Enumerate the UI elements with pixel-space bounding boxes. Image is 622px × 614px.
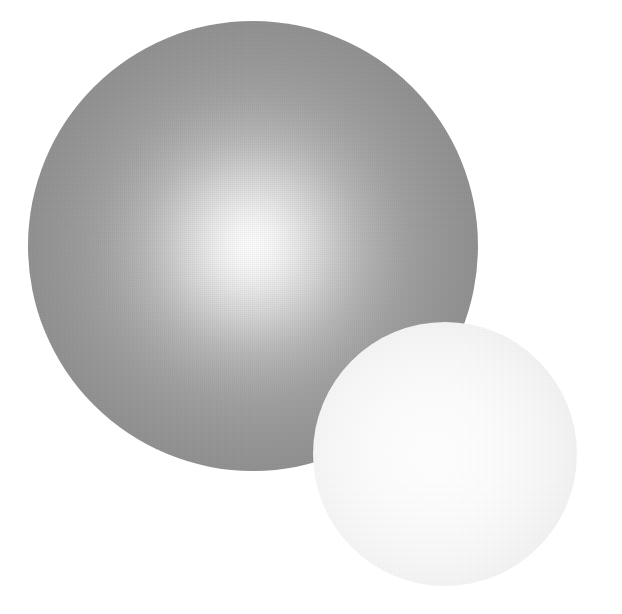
small-sphere — [313, 322, 577, 586]
halftone-grain-overlay — [313, 322, 577, 586]
image-canvas — [0, 0, 622, 614]
